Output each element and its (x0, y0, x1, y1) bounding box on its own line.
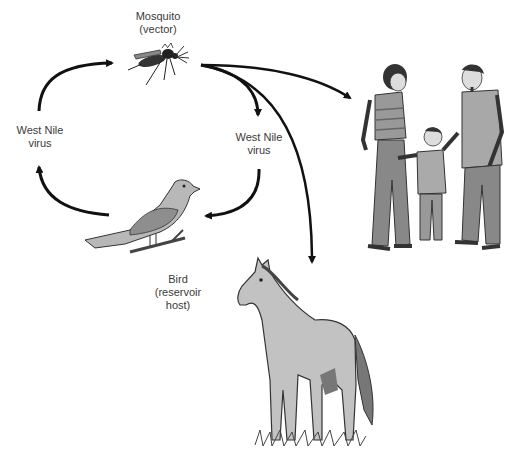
left-virus-label: West Nile virus (2, 124, 78, 150)
man-figure (455, 64, 502, 248)
right-virus-line2: virus (222, 144, 296, 157)
diagram-graphics (0, 0, 520, 465)
right-virus-line1: West Nile (222, 131, 296, 144)
mosquito-illustration (128, 43, 189, 85)
bird-illustration (85, 180, 200, 252)
bird-name: Bird (140, 273, 216, 286)
mosquito-name: Mosquito (113, 10, 203, 23)
arrow-mosquito-to-horse (201, 65, 312, 262)
mosquito-label: Mosquito (vector) (113, 10, 203, 36)
humans-illustration (363, 64, 502, 249)
arrow-mosquito-to-bird-lower (206, 169, 259, 216)
left-virus-line2: virus (2, 137, 78, 150)
bird-role-line2: host) (140, 299, 216, 312)
right-virus-label: West Nile virus (222, 131, 296, 157)
arrow-bird-to-mosquito-upper (39, 63, 112, 111)
bird-label: Bird (reservoir host) (140, 273, 216, 312)
bird-role-line1: (reservoir (140, 286, 216, 299)
mosquito-role: (vector) (113, 23, 203, 36)
left-virus-line1: West Nile (2, 124, 78, 137)
arrow-bird-to-mosquito-lower (39, 167, 109, 215)
horse-illustration (238, 258, 373, 446)
west-nile-diagram: Mosquito (vector) West Nile virus West N… (0, 0, 520, 465)
